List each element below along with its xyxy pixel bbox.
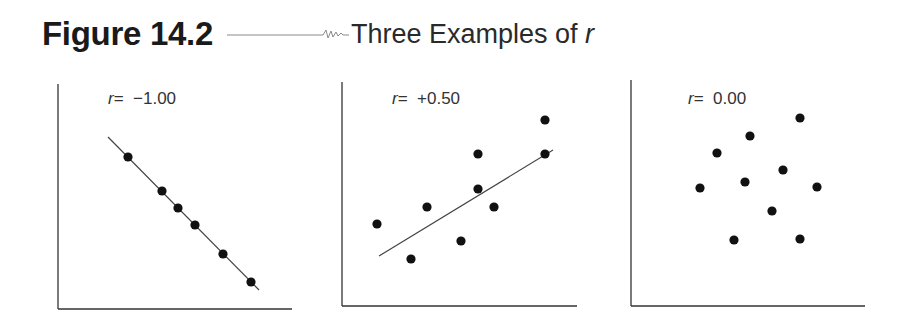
data-point <box>795 234 804 243</box>
data-point <box>406 254 415 263</box>
correlation-label: r= +0.50 <box>392 89 460 108</box>
data-point <box>540 149 549 158</box>
data-point <box>540 115 549 124</box>
data-point <box>372 219 381 228</box>
correlation-label: r= −1.00 <box>108 89 176 108</box>
scatter-panel-3: r= 0.00 <box>631 80 865 306</box>
data-point <box>422 202 431 211</box>
data-point <box>729 235 738 244</box>
data-point <box>173 203 182 212</box>
trend-line <box>379 150 553 256</box>
data-point <box>740 177 749 186</box>
data-point <box>795 113 804 122</box>
data-point <box>218 249 227 258</box>
scatter-panel-2: r= +0.50 <box>342 82 577 306</box>
data-point <box>767 206 776 215</box>
data-point <box>778 165 787 174</box>
data-point <box>157 186 166 195</box>
data-point <box>489 202 498 211</box>
data-point <box>190 220 199 229</box>
data-point <box>123 152 132 161</box>
data-point <box>695 183 704 192</box>
data-point <box>473 149 482 158</box>
scatter-panel-1: r= −1.00 <box>58 84 292 309</box>
data-point <box>745 131 754 140</box>
correlation-label: r= 0.00 <box>688 89 746 108</box>
data-point <box>473 184 482 193</box>
data-point <box>712 148 721 157</box>
data-point <box>246 277 255 286</box>
scatter-panels: r= −1.00r= +0.50r= 0.00 <box>0 0 912 320</box>
data-point <box>456 236 465 245</box>
data-point <box>812 182 821 191</box>
